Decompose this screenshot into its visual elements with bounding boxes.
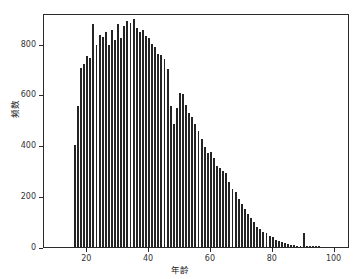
x-axis-tick	[334, 248, 335, 252]
y-axis-tick	[39, 197, 43, 198]
histogram-bar	[315, 246, 317, 247]
histogram-bar	[256, 227, 258, 247]
histogram-bar	[182, 94, 184, 247]
histogram-bar	[219, 168, 221, 247]
histogram-bar	[77, 106, 79, 247]
histogram-bar	[179, 93, 181, 247]
histogram-bar	[269, 236, 271, 247]
histogram-bar	[126, 21, 128, 247]
histogram-bar	[204, 147, 206, 247]
x-axis-tick	[86, 248, 87, 252]
histogram-bar	[198, 131, 200, 247]
y-axis-tick	[39, 248, 43, 249]
plot-area	[43, 14, 349, 248]
histogram-bar	[108, 45, 110, 247]
histogram-bar	[160, 55, 162, 247]
bars-layer	[44, 15, 348, 247]
y-axis-tick-label: 600	[21, 91, 36, 99]
histogram-bar	[188, 113, 190, 247]
x-axis-tick-label: 100	[319, 254, 349, 263]
x-axis-tick-label: 60	[195, 254, 225, 263]
y-axis-label: 频数	[10, 100, 20, 118]
histogram-bar	[318, 246, 320, 247]
histogram-bar	[272, 237, 274, 247]
histogram-bar	[99, 35, 101, 247]
histogram-chart: 频数 年龄 020040060080020406080100	[0, 0, 360, 279]
histogram-bar	[284, 243, 286, 247]
histogram-bar	[142, 30, 144, 247]
histogram-bar	[154, 47, 156, 247]
histogram-bar	[303, 233, 305, 247]
histogram-bar	[89, 58, 91, 247]
histogram-bar	[191, 117, 193, 247]
histogram-bar	[250, 218, 252, 247]
histogram-bar	[235, 192, 237, 247]
histogram-bar	[262, 232, 264, 247]
x-axis-tick-label: 80	[257, 254, 287, 263]
histogram-bar	[185, 105, 187, 247]
histogram-bar	[287, 244, 289, 247]
histogram-bar	[170, 106, 172, 247]
histogram-bar	[225, 173, 227, 247]
histogram-bar	[86, 56, 88, 247]
histogram-bar	[293, 245, 295, 247]
histogram-bar	[151, 44, 153, 247]
histogram-bar	[74, 145, 76, 247]
histogram-bar	[167, 69, 169, 247]
histogram-bar	[228, 182, 230, 247]
histogram-bar	[244, 209, 246, 247]
histogram-bar	[102, 37, 104, 247]
x-axis-tick	[272, 248, 273, 252]
histogram-bar	[83, 64, 85, 247]
histogram-bar	[114, 40, 116, 247]
histogram-bar	[194, 124, 196, 247]
histogram-bar	[130, 23, 132, 247]
y-axis-tick	[39, 45, 43, 46]
histogram-bar	[312, 246, 314, 247]
histogram-bar	[241, 204, 243, 247]
x-axis-label: 年龄	[0, 265, 360, 275]
histogram-bar	[148, 38, 150, 247]
histogram-bar	[123, 26, 125, 247]
x-axis-tick	[148, 248, 149, 252]
y-axis-tick	[39, 146, 43, 147]
histogram-bar	[222, 171, 224, 247]
histogram-bar	[278, 241, 280, 247]
histogram-bar	[157, 54, 159, 247]
histogram-bar	[117, 24, 119, 247]
histogram-bar	[136, 28, 138, 247]
histogram-bar	[176, 108, 178, 247]
y-axis-tick-label: 400	[21, 142, 36, 150]
histogram-bar	[213, 158, 215, 247]
histogram-bar	[210, 152, 212, 247]
histogram-bar	[139, 32, 141, 247]
x-axis-tick-label: 20	[71, 254, 101, 263]
x-axis-tick-label: 40	[133, 254, 163, 263]
y-axis-tick-label: 200	[21, 193, 36, 201]
histogram-bar	[266, 233, 268, 247]
histogram-bar	[92, 24, 94, 247]
histogram-bar	[238, 199, 240, 247]
histogram-bar	[309, 246, 311, 247]
histogram-bar	[290, 245, 292, 247]
histogram-bar	[207, 153, 209, 247]
histogram-bar	[275, 240, 277, 247]
histogram-bar	[300, 246, 302, 247]
histogram-bar	[296, 246, 298, 247]
y-axis-tick-label: 800	[21, 41, 36, 49]
histogram-bar	[120, 38, 122, 247]
histogram-bar	[164, 59, 166, 247]
histogram-bar	[281, 242, 283, 247]
y-axis-tick	[39, 95, 43, 96]
x-axis-tick	[210, 248, 211, 252]
y-axis-tick-label: 0	[31, 244, 36, 252]
histogram-bar	[111, 30, 113, 247]
histogram-bar	[216, 166, 218, 247]
histogram-bar	[259, 229, 261, 247]
histogram-bar	[306, 246, 308, 247]
histogram-bar	[105, 32, 107, 247]
histogram-bar	[96, 45, 98, 247]
histogram-bar	[145, 36, 147, 247]
histogram-bar	[201, 139, 203, 247]
histogram-bar	[247, 214, 249, 247]
